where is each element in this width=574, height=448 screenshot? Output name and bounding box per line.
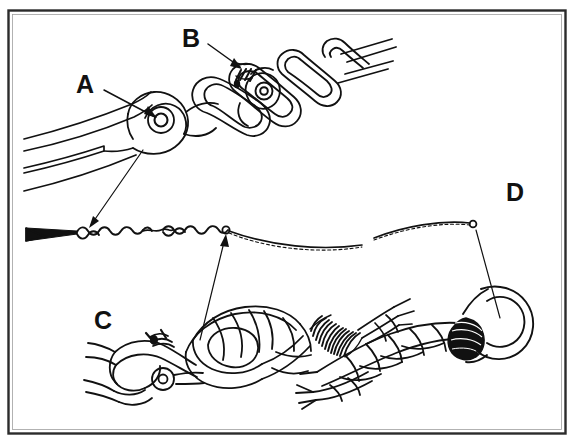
technical-illustration bbox=[0, 0, 574, 448]
callout-label-c: C bbox=[94, 308, 112, 333]
figure-plate: A B C D bbox=[0, 0, 574, 448]
callout-label-a: A bbox=[76, 72, 94, 97]
callout-label-b: B bbox=[182, 26, 200, 51]
callout-label-d: D bbox=[506, 180, 524, 205]
